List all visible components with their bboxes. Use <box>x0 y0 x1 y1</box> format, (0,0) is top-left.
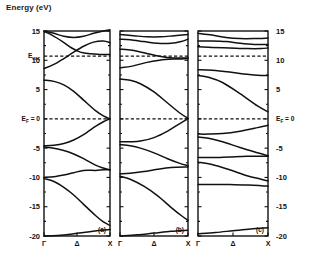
band-curve <box>120 59 188 68</box>
fermi-level-label-right: EF = 0 <box>276 115 295 124</box>
y-tick-label: -5 <box>33 144 40 153</box>
band-curve <box>44 80 110 119</box>
band-curve <box>120 39 188 43</box>
band-curve <box>198 33 268 38</box>
band-curve <box>198 125 268 134</box>
band-curve <box>198 162 268 181</box>
y-axis-title: Energy (eV) <box>6 3 52 12</box>
band-panel: ΓΔX(a) <box>42 30 113 247</box>
panel-label: (a) <box>98 226 106 234</box>
band-curve <box>44 179 110 226</box>
y-tick-label: 5 <box>276 85 280 94</box>
band-curve <box>198 41 268 45</box>
x-tick-label: Γ <box>196 240 201 247</box>
panel-label: (c) <box>256 226 264 234</box>
panel-frame <box>44 31 110 236</box>
band-curve <box>120 35 188 37</box>
y-tick-label: -15 <box>29 202 40 211</box>
y-tick-label: 15 <box>276 27 284 36</box>
band-curve <box>120 79 188 118</box>
band-curve <box>120 167 188 174</box>
y-tick-label: -10 <box>276 173 287 182</box>
x-tick-label: X <box>266 240 271 247</box>
y-tick-label: -15 <box>276 202 287 211</box>
band-curve <box>120 145 188 166</box>
panel-label: (b) <box>176 226 184 234</box>
y-tick-label: -5 <box>276 144 283 153</box>
band-curve <box>120 176 188 220</box>
x-tick-label: X <box>108 240 113 247</box>
band-curve <box>44 119 110 146</box>
band-curve <box>198 137 268 156</box>
y-tick-label: -20 <box>276 232 287 241</box>
y-tick-label: 10 <box>276 56 284 65</box>
band-curve <box>198 70 268 76</box>
y-tick-label: 5 <box>36 85 40 94</box>
band-structure-figure: Energy (eV) 15105EF = 0-5-10-15-20Evac 1… <box>0 0 314 265</box>
band-curve <box>198 76 268 112</box>
band-curve <box>198 156 268 157</box>
band-curve <box>44 147 110 170</box>
x-tick-label: Δ <box>230 240 235 247</box>
fermi-level-label-left: EF = 0 <box>22 115 41 124</box>
band-curve <box>44 32 110 55</box>
band-curve <box>120 119 188 142</box>
y-tick-label: -10 <box>29 173 40 182</box>
x-tick-label: Δ <box>74 240 79 247</box>
x-tick-label: X <box>186 240 191 247</box>
x-tick-label: Δ <box>151 240 156 247</box>
y-tick-label: 15 <box>32 27 40 36</box>
panel-group: ΓΔX(a)ΓΔX(b)ΓΔX(c) <box>42 30 271 247</box>
band-panel: ΓΔX(c) <box>196 31 271 247</box>
x-tick-label: Γ <box>42 240 47 247</box>
band-panel: ΓΔX(b) <box>118 31 191 247</box>
plot-canvas: 15105EF = 0-5-10-15-20Evac 15105EF = 0-5… <box>0 0 314 265</box>
y-axis-right-labels: 15105EF = 0-5-10-15-20 <box>276 27 295 241</box>
band-curve <box>44 170 110 178</box>
vacuum-level-label: Evac <box>28 52 41 61</box>
band-curve <box>198 47 268 49</box>
y-axis-left-labels: 15105EF = 0-5-10-15-20Evac <box>22 27 41 241</box>
x-tick-label: Γ <box>118 240 123 247</box>
y-tick-label: -20 <box>29 232 40 241</box>
band-curve <box>198 184 268 186</box>
